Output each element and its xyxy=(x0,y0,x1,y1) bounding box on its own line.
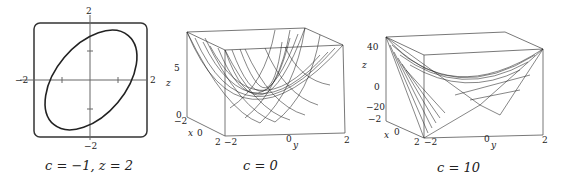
y-tick-2: 2 xyxy=(344,135,350,145)
wireframe-mesh xyxy=(187,28,343,123)
x-tick-left: −2 xyxy=(15,75,28,85)
y-tick-0: 0 xyxy=(484,134,490,144)
caption: c = 0 xyxy=(243,158,278,173)
caption: c = 10 xyxy=(437,160,480,175)
x-tick-right: 2 xyxy=(150,75,156,85)
z-axis-label: z xyxy=(166,78,171,88)
y-tick-neg2: −2 xyxy=(224,137,237,147)
x-tick-0: 0 xyxy=(394,127,400,137)
x-tick-2: 2 xyxy=(215,137,221,147)
y-tick-top: 2 xyxy=(86,6,92,16)
y-axis-label: y xyxy=(293,140,298,150)
z-tick-0: 0 xyxy=(374,82,380,92)
panel-surface-c0: 5 z 0 −2 x 0 2 −2 0 y 2 c = 0 xyxy=(180,0,370,184)
x-axis-label: x xyxy=(384,130,389,140)
contour-plot xyxy=(0,0,185,184)
x-tick-neg2: −2 xyxy=(174,116,187,126)
y-tick-2: 2 xyxy=(542,135,548,145)
z-axis-label: z xyxy=(362,60,367,70)
paraboloid-plot xyxy=(180,0,370,184)
z-tick-neg20: −20 xyxy=(366,102,385,112)
wireframe-mesh xyxy=(386,37,543,138)
y-tick-0: 0 xyxy=(286,134,292,144)
x-tick-0: 0 xyxy=(197,128,203,138)
caption: c = −1, z = 2 xyxy=(45,158,133,173)
y-axis-label: y xyxy=(491,140,496,150)
y-tick-neg2: −2 xyxy=(424,137,437,147)
z-tick-5: 5 xyxy=(174,63,180,73)
x-tick-2: 2 xyxy=(414,137,420,147)
y-tick-bottom: −2 xyxy=(84,141,97,151)
panel-contour: 2 −2 2 −2 c = −1, z = 2 xyxy=(0,0,185,184)
x-tick-neg2: −2 xyxy=(368,114,381,124)
panel-surface-c10: 40 z 0 −20 −2 x 0 2 −2 0 y 2 c = 10 xyxy=(370,0,567,184)
z-tick-40: 40 xyxy=(367,42,378,52)
x-axis-label: x xyxy=(188,128,193,138)
saddle-plot xyxy=(370,0,567,184)
